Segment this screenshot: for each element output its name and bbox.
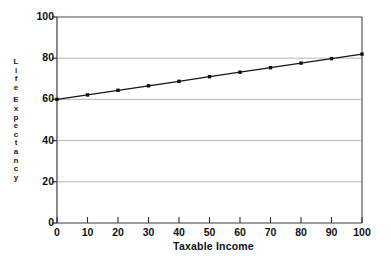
x-axis-label: Taxable Income — [0, 240, 391, 252]
chart-figure: L i f e E x p e c t a n c y 100 80 60 40… — [0, 0, 391, 260]
x-tick-label: 30 — [134, 226, 164, 238]
x-axis-tick-labels: 0 10 20 30 40 50 60 70 80 90 100 — [0, 0, 391, 260]
x-tick-label: 50 — [195, 226, 225, 238]
x-tick-label: 100 — [347, 226, 377, 238]
x-tick-label: 60 — [225, 226, 255, 238]
x-axis-label-text: Taxable Income — [137, 240, 254, 252]
x-tick-label: 90 — [317, 226, 347, 238]
x-tick-label: 20 — [103, 226, 133, 238]
x-tick-label: 40 — [164, 226, 194, 238]
x-tick-label: 70 — [256, 226, 286, 238]
x-tick-label: 10 — [73, 226, 103, 238]
x-tick-label: 80 — [286, 226, 316, 238]
x-tick-label: 0 — [42, 226, 72, 238]
